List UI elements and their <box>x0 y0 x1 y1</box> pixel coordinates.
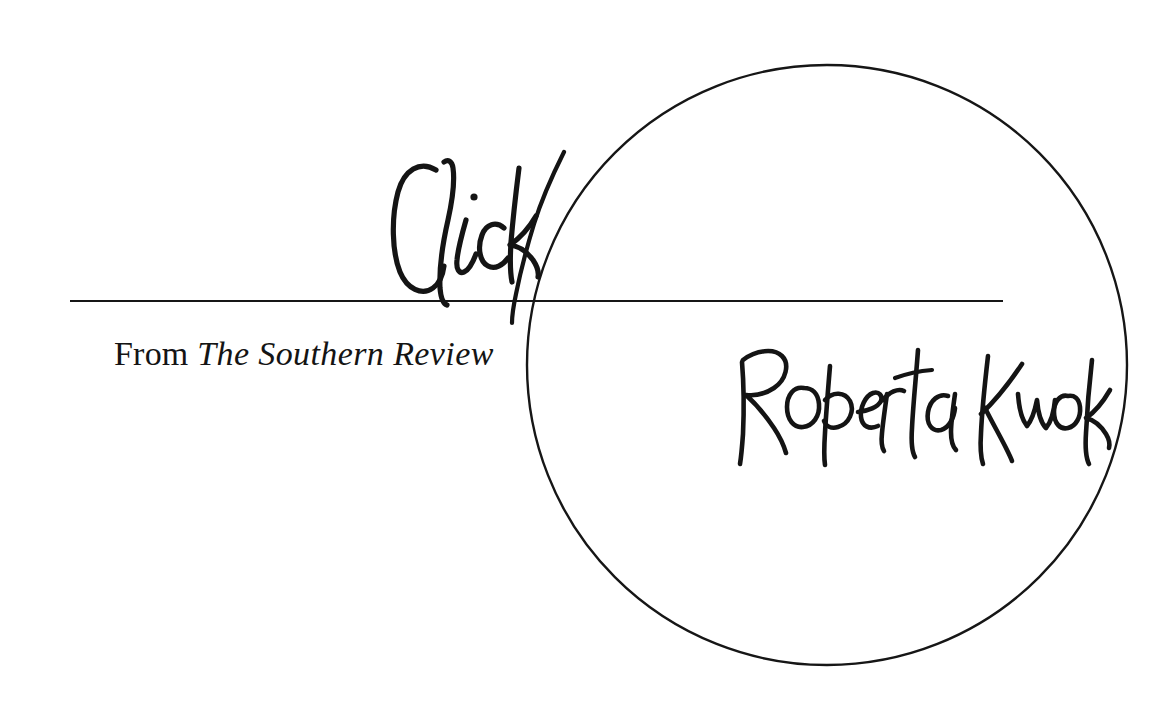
source-space <box>188 335 197 372</box>
publication-name: The Southern Review <box>197 335 494 372</box>
title-script-glyphs <box>386 148 566 323</box>
title-click <box>386 148 566 323</box>
title-page: From The Southern Review <box>0 0 1176 722</box>
author-name-roberta-kwok <box>732 338 1072 473</box>
source-line: From The Southern Review <box>114 334 494 374</box>
author-script-glyphs <box>732 338 1072 473</box>
source-prefix: From <box>114 335 188 372</box>
